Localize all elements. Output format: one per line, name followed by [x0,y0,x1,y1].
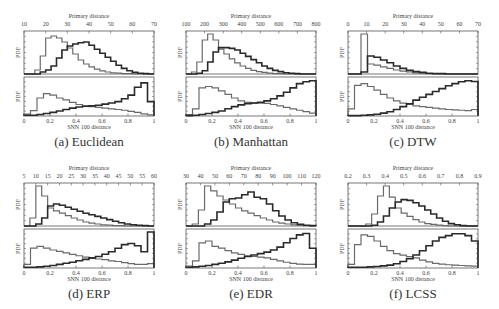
top-tick-label: 0.6 [419,173,427,179]
top-tick-label: 0.2 [344,173,352,179]
histogram-plot-f: Primary distance0.20.30.40.50.60.70.80.9… [0,0,499,309]
top-series-light [348,186,478,226]
panel-caption: (f) LCSS [338,286,488,302]
bottom-series-light [348,235,478,268]
top-tick-label: 0.5 [400,173,408,179]
top-series-dark [348,200,478,226]
top-ylabel: PDF [339,198,345,210]
bottom-ylabel: PDF [339,242,345,254]
bottom-tick-label: 0.2 [370,270,378,276]
top-tick-label: 0.3 [363,173,371,179]
bottom-tick-label: 0.8 [448,270,456,276]
top-tick-label: 0.4 [381,173,389,179]
top-tick-label: 0.8 [456,173,464,179]
top-tick-label: 0.9 [474,173,482,179]
top-axis-title: Primary distance [393,165,434,171]
bottom-tick-label: 0 [347,270,350,276]
bottom-tick-label: 1 [477,270,480,276]
bottom-axis-title: SNN 100 distance [391,276,435,282]
top-tick-label: 0.7 [437,173,445,179]
bottom-series-dark [348,234,478,268]
